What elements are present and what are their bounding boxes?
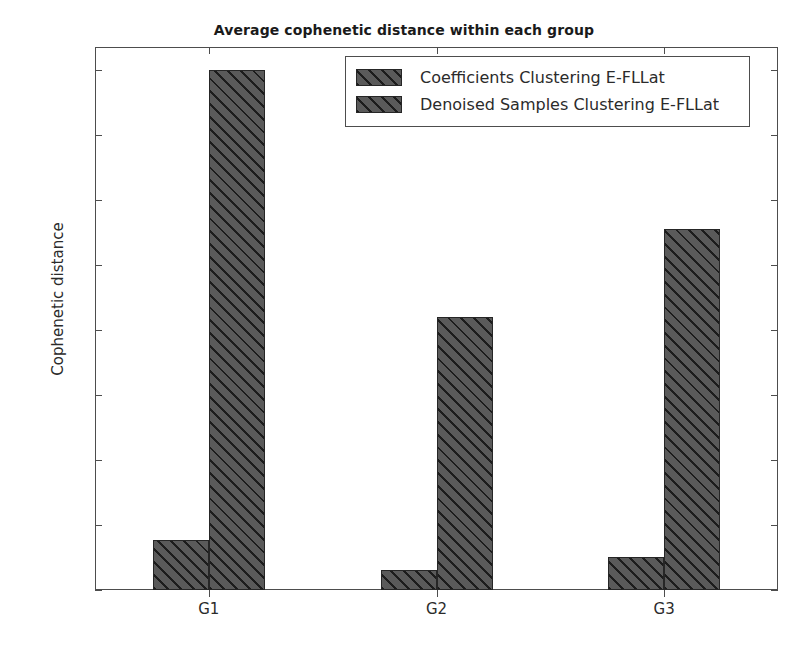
y-axis-tick-mark <box>771 330 778 331</box>
y-axis-tick-mark <box>95 525 102 526</box>
legend-item: Denoised Samples Clustering E-FLLat <box>356 91 739 118</box>
bar <box>437 317 493 590</box>
y-axis-tick-mark <box>95 135 102 136</box>
y-axis-tick-mark <box>95 70 102 71</box>
y-axis-tick-mark <box>95 590 102 591</box>
y-axis-label: Cophenetic distance <box>49 149 67 449</box>
bar <box>664 229 720 590</box>
chart-title: Average cophenetic distance within each … <box>0 22 808 38</box>
x-axis-tick-label: G2 <box>397 600 477 618</box>
legend-label: Denoised Samples Clustering E-FLLat <box>420 95 719 114</box>
x-axis-tick-label: G3 <box>624 600 704 618</box>
y-axis-tick-mark <box>95 200 102 201</box>
y-axis-tick-mark <box>771 265 778 266</box>
x-axis-tick-mark <box>664 47 665 54</box>
x-axis-tick-mark <box>209 47 210 54</box>
x-axis-tick-label: G1 <box>169 600 249 618</box>
bar <box>209 70 265 590</box>
bar <box>381 570 437 590</box>
x-axis-tick-mark <box>437 47 438 54</box>
y-axis-tick-mark <box>771 200 778 201</box>
legend-item: Coefficients Clustering E-FLLat <box>356 64 739 91</box>
y-axis-tick-mark <box>771 590 778 591</box>
x-axis-tick-mark <box>209 590 210 597</box>
y-axis-tick-mark <box>771 395 778 396</box>
figure-canvas: Average cophenetic distance within each … <box>0 0 808 647</box>
legend: Coefficients Clustering E-FLLat Denoised… <box>345 56 750 127</box>
legend-swatch-icon <box>356 96 402 113</box>
y-axis-tick-mark <box>95 395 102 396</box>
bar <box>153 540 209 590</box>
y-axis-tick-mark <box>771 460 778 461</box>
y-axis-tick-mark <box>771 70 778 71</box>
y-axis-tick-mark <box>95 460 102 461</box>
legend-label: Coefficients Clustering E-FLLat <box>420 68 665 87</box>
y-axis-tick-mark <box>771 525 778 526</box>
y-axis-tick-mark <box>95 265 102 266</box>
y-axis-tick-mark <box>771 135 778 136</box>
bar <box>608 557 664 590</box>
legend-swatch-icon <box>356 69 402 86</box>
y-axis-tick-mark <box>95 330 102 331</box>
x-axis-tick-mark <box>664 590 665 597</box>
x-axis-tick-mark <box>437 590 438 597</box>
